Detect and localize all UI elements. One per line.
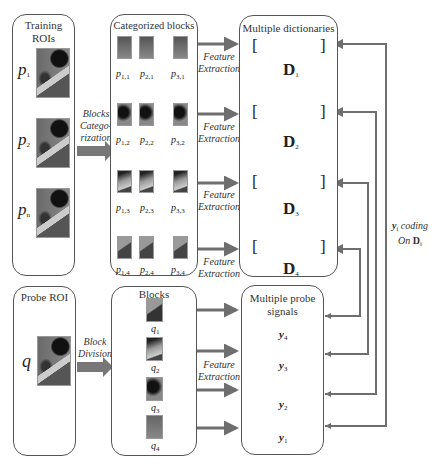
feature-extraction-label-bottom: FeatureExtraction [195, 359, 243, 383]
block-p13 [117, 170, 132, 193]
block-label-q2: q2 [151, 362, 160, 375]
block-label-p12: p1,2 [116, 134, 130, 147]
block-division-label: Block Division [76, 336, 114, 360]
roi-image-pn [36, 188, 70, 238]
block-p31 [173, 36, 188, 59]
roi-label-p1: p1 [18, 60, 30, 80]
block-q2 [146, 337, 163, 361]
feature-extraction-label-2: FeatureExtraction [195, 121, 243, 145]
probe-roi-image [37, 336, 71, 386]
probe-signals-title: Multiple probe signals [242, 292, 323, 318]
signal-y1: y1 [279, 431, 287, 445]
signal-y3: y3 [279, 359, 287, 373]
training-rois-title: Training ROIs [13, 19, 74, 45]
categorized-blocks-title: Categorized blocks [111, 19, 197, 32]
block-label-q4: q4 [151, 440, 160, 453]
feature-extraction-label-3: FeatureExtraction [195, 189, 243, 213]
block-label-p34: p3,4 [171, 264, 185, 277]
block-p12 [117, 103, 132, 126]
block-p11 [117, 36, 132, 59]
block-p33 [173, 170, 188, 193]
feature-extraction-label-1: FeatureExtraction [195, 51, 243, 75]
block-label-p32: p3,2 [171, 134, 185, 147]
roi-label-p2: p2 [18, 130, 30, 150]
probe-label-q: q [22, 351, 31, 372]
block-q3 [146, 377, 163, 401]
roi-image-p2 [36, 118, 70, 168]
block-label-q3: q3 [151, 402, 160, 415]
block-p22 [139, 103, 154, 126]
roi-image-p1 [36, 48, 70, 98]
block-p24 [139, 236, 154, 259]
feature-extraction-label-4: FeatureExtraction [195, 256, 243, 280]
block-p32 [173, 103, 188, 126]
block-label-p11: p1,1 [116, 68, 130, 81]
signal-y4: y4 [279, 328, 287, 342]
block-label-q1: q1 [151, 323, 160, 336]
block-q4 [146, 415, 163, 439]
block-q1 [146, 298, 163, 322]
block-p23 [139, 170, 154, 193]
block-label-p33: p3,3 [171, 202, 185, 215]
block-label-p31: p3,1 [171, 68, 185, 81]
block-p34 [173, 236, 188, 259]
block-label-p21: p2,1 [140, 68, 154, 81]
division-arrow [77, 357, 113, 377]
block-label-p24: p2,4 [140, 264, 154, 277]
probe-roi-title: Probe ROI [14, 291, 75, 304]
dictionaries-title: Multiple dictionaries [240, 22, 337, 35]
roi-label-pn: pn [18, 200, 30, 220]
block-p21 [139, 36, 154, 59]
block-label-p13: p1,3 [116, 202, 130, 215]
block-label-p23: p2,3 [140, 202, 154, 215]
coding-label: yi coding On Di [384, 220, 435, 250]
signal-y2: y2 [279, 398, 287, 412]
block-label-p14: p1,4 [116, 264, 130, 277]
block-label-p22: p2,2 [140, 134, 154, 147]
block-p14 [117, 236, 132, 259]
